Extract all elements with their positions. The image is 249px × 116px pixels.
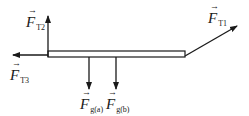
- force-subscript: g(a): [90, 105, 103, 114]
- force-symbol: F: [26, 14, 35, 30]
- beam: [48, 51, 185, 57]
- label-f-t3: FT3: [10, 67, 29, 83]
- force-subscript: T1: [218, 19, 227, 28]
- label-f-ga: Fg(a): [80, 96, 103, 112]
- force-symbol: F: [208, 10, 217, 26]
- force-symbol: F: [80, 96, 89, 112]
- force-subscript: T3: [20, 76, 29, 85]
- label-f-gb: Fg(b): [106, 96, 130, 112]
- force-symbol: F: [10, 67, 19, 83]
- force-symbol: F: [106, 96, 115, 112]
- force-subscript: g(b): [116, 105, 129, 114]
- force-arrow-t1: [185, 26, 237, 56]
- force-subscript: T2: [36, 23, 45, 32]
- label-f-t1: FT1: [208, 10, 227, 26]
- label-f-t2: FT2: [26, 14, 45, 30]
